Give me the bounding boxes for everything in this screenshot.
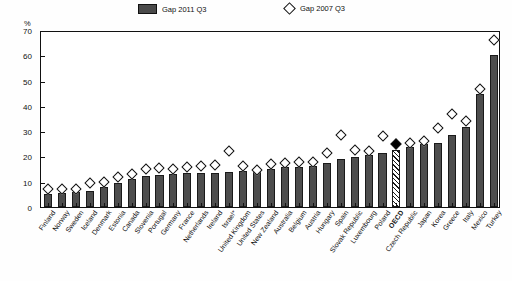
y-axis-tick-mark: [40, 157, 45, 158]
legend-item-gap-2007: Gap 2007 Q3: [284, 4, 345, 13]
bar-group[interactable]: [211, 32, 219, 207]
marker-gap-2007[interactable]: [237, 160, 248, 171]
bar-group[interactable]: [155, 32, 163, 207]
bar-group[interactable]: [100, 32, 108, 207]
x-axis-tick-mark: [452, 203, 453, 207]
marker-gap-2007[interactable]: [447, 109, 458, 120]
bar-group[interactable]: [281, 32, 289, 207]
x-axis-tick-mark: [396, 203, 397, 207]
bar-gap-2011[interactable]: [351, 157, 359, 207]
marker-gap-2007[interactable]: [488, 34, 499, 45]
bar-gap-2011[interactable]: [197, 173, 205, 207]
bar-group[interactable]: [169, 32, 177, 207]
marker-gap-2007[interactable]: [98, 177, 109, 188]
marker-gap-2007[interactable]: [321, 147, 332, 158]
bar-group[interactable]: [490, 32, 498, 207]
marker-gap-2007[interactable]: [112, 172, 123, 183]
plot-area: [40, 31, 500, 208]
bar-group[interactable]: [253, 32, 261, 207]
marker-gap-2007[interactable]: [126, 168, 137, 179]
x-axis-tick-mark: [257, 203, 258, 207]
bar-group[interactable]: [197, 32, 205, 207]
bar-group[interactable]: [58, 32, 66, 207]
bar-group[interactable]: [378, 32, 386, 207]
bar-gap-2011[interactable]: [434, 143, 442, 207]
bar-group[interactable]: [267, 32, 275, 207]
bar-gap-2011[interactable]: [406, 147, 414, 207]
bar-gap-2011[interactable]: [476, 94, 484, 207]
marker-gap-2007[interactable]: [223, 146, 234, 157]
marker-gap-2007[interactable]: [293, 156, 304, 167]
bar-gap-2011[interactable]: [267, 169, 275, 207]
bar-group[interactable]: [392, 32, 400, 207]
x-axis-tick-mark: [215, 203, 216, 207]
bar-gap-2011[interactable]: [281, 167, 289, 207]
open-diamond-marker-icon: [283, 2, 296, 15]
x-axis-tick-mark: [146, 203, 147, 207]
bar-gap-2011[interactable]: [211, 173, 219, 207]
bar-group[interactable]: [476, 32, 484, 207]
x-axis-tick-mark: [369, 203, 370, 207]
x-axis-tick-mark: [229, 203, 230, 207]
bar-group[interactable]: [239, 32, 247, 207]
marker-gap-2007[interactable]: [377, 131, 388, 142]
x-axis-tick-mark: [494, 203, 495, 207]
bar-gap-2011[interactable]: [239, 171, 247, 207]
bar-group[interactable]: [128, 32, 136, 207]
marker-gap-2007[interactable]: [182, 161, 193, 172]
bar-gap-2011[interactable]: [448, 135, 456, 207]
marker-gap-2007[interactable]: [140, 163, 151, 174]
bar-gap-2011[interactable]: [420, 144, 428, 207]
bar-group[interactable]: [406, 32, 414, 207]
x-axis-labels: FinlandNorwaySwedenIcelandDenmarkEstonia…: [40, 209, 500, 281]
bar-gap-2011[interactable]: [323, 163, 331, 208]
filled-bar-swatch-icon: [138, 4, 157, 14]
bar-gap-2011[interactable]: [337, 159, 345, 207]
bar-gap-2011[interactable]: [225, 172, 233, 207]
bar-gap-2011[interactable]: [365, 155, 373, 207]
x-axis-tick-mark: [466, 203, 467, 207]
marker-gap-2007[interactable]: [196, 161, 207, 172]
bar-group[interactable]: [44, 32, 52, 207]
marker-gap-2007[interactable]: [210, 159, 221, 170]
bar-group[interactable]: [434, 32, 442, 207]
x-axis-tick-mark: [327, 203, 328, 207]
bar-group[interactable]: [295, 32, 303, 207]
legend-label-gap-2011: Gap 2011 Q3: [162, 5, 206, 14]
x-axis-tick-mark: [76, 203, 77, 207]
marker-gap-2007[interactable]: [84, 178, 95, 189]
marker-gap-2007[interactable]: [391, 139, 402, 150]
marker-gap-2007[interactable]: [335, 129, 346, 140]
bar-group[interactable]: [323, 32, 331, 207]
bar-group[interactable]: [351, 32, 359, 207]
bar-group[interactable]: [114, 32, 122, 207]
marker-gap-2007[interactable]: [154, 162, 165, 173]
bar-gap-2011[interactable]: [392, 150, 400, 207]
bar-group[interactable]: [337, 32, 345, 207]
marker-gap-2007[interactable]: [265, 158, 276, 169]
bar-group[interactable]: [309, 32, 317, 207]
marker-gap-2007[interactable]: [349, 144, 360, 155]
marker-gap-2007[interactable]: [474, 83, 485, 94]
x-axis-tick-mark: [90, 203, 91, 207]
bar-group[interactable]: [448, 32, 456, 207]
bar-gap-2011[interactable]: [462, 127, 470, 207]
bar-gap-2011[interactable]: [183, 173, 191, 207]
bar-gap-2011[interactable]: [490, 55, 498, 207]
bar-gap-2011[interactable]: [378, 153, 386, 207]
bar-group[interactable]: [225, 32, 233, 207]
x-axis-tick-mark: [355, 203, 356, 207]
bar-gap-2011[interactable]: [309, 166, 317, 207]
marker-gap-2007[interactable]: [433, 122, 444, 133]
bar-gap-2011[interactable]: [295, 167, 303, 207]
bar-group[interactable]: [365, 32, 373, 207]
marker-gap-2007[interactable]: [168, 163, 179, 174]
bar-group[interactable]: [72, 32, 80, 207]
bar-group[interactable]: [142, 32, 150, 207]
bar-group[interactable]: [183, 32, 191, 207]
bar-group[interactable]: [462, 32, 470, 207]
marker-gap-2007[interactable]: [460, 115, 471, 126]
bar-group[interactable]: [420, 32, 428, 207]
bar-group[interactable]: [86, 32, 94, 207]
x-axis-tick-mark: [271, 203, 272, 207]
